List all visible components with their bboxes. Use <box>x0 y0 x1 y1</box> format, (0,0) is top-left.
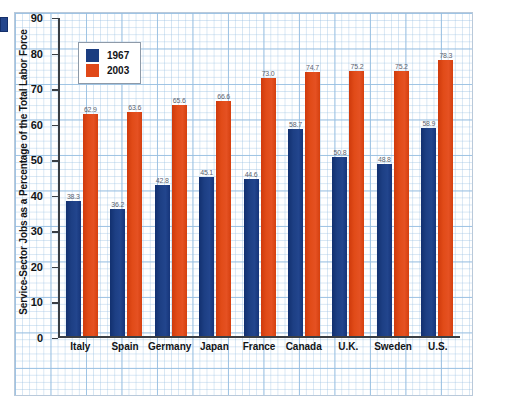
bar-2003-Canada[interactable]: 74.7 <box>305 72 320 336</box>
bar-value-label: 58.7 <box>289 121 302 128</box>
bar-value-label: 75.2 <box>395 63 408 70</box>
bar-1967-Sweden[interactable]: 48.8 <box>377 164 392 336</box>
bar-value-label: 62.9 <box>84 106 97 113</box>
legend-label-1967: 1967 <box>107 50 129 61</box>
bar-fill <box>377 164 392 336</box>
bar-fill <box>261 78 276 336</box>
legend-label-2003: 2003 <box>107 65 129 76</box>
y-tick-0: 0 <box>52 338 58 339</box>
bar-fill <box>438 60 453 337</box>
x-label-US: U.S. <box>415 341 460 352</box>
x-label-Spain: Spain <box>103 341 148 352</box>
bar-fill <box>332 157 347 336</box>
y-tick-label-60: 60 <box>31 119 43 131</box>
bar-fill <box>349 71 364 337</box>
y-tick-label-90: 90 <box>31 12 43 24</box>
bar-fill <box>421 128 436 336</box>
y-tick-50: 50 <box>52 160 58 161</box>
bar-value-label: 48.8 <box>378 156 391 163</box>
bar-2003-UK[interactable]: 75.2 <box>349 71 364 337</box>
x-label-Italy: Italy <box>58 341 103 352</box>
bar-2003-Germany[interactable]: 65.6 <box>172 105 187 337</box>
bar-1967-France[interactable]: 44.6 <box>244 179 259 337</box>
bar-value-label: 38.3 <box>67 193 80 200</box>
bar-group: 48.875.2 <box>371 18 415 336</box>
y-tick-10: 10 <box>52 302 58 303</box>
bar-value-label: 73.0 <box>262 70 275 77</box>
legend-item-2003[interactable]: 2003 <box>86 63 129 78</box>
bar-1967-Japan[interactable]: 45.1 <box>199 177 214 336</box>
y-tick-label-10: 10 <box>31 296 43 308</box>
y-tick-label-70: 70 <box>31 83 43 95</box>
bar-fill <box>199 177 214 336</box>
bar-1967-US[interactable]: 58.9 <box>421 128 436 336</box>
bar-group: 45.166.6 <box>193 18 237 336</box>
legend-swatch-2003-icon <box>86 64 99 77</box>
bar-1967-Italy[interactable]: 38.3 <box>66 201 81 336</box>
y-tick-70: 70 <box>52 89 58 90</box>
y-axis-title: Service-Sector Jobs as a Percentage of t… <box>18 22 32 322</box>
bar-fill <box>244 179 259 337</box>
bar-2003-France[interactable]: 73.0 <box>261 78 276 336</box>
y-tick-label-40: 40 <box>31 190 43 202</box>
bar-fill <box>288 129 303 336</box>
bar-1967-Spain[interactable]: 36.2 <box>110 209 125 337</box>
x-label-Japan: Japan <box>192 341 237 352</box>
y-tick-80: 80 <box>52 54 58 55</box>
figure-page: Service-Sector Jobs as a Percentage of t… <box>0 0 525 409</box>
bar-group: 58.978.3 <box>415 18 459 336</box>
bar-1967-Canada[interactable]: 58.7 <box>288 129 303 336</box>
y-tick-20: 20 <box>52 267 58 268</box>
bar-fill <box>127 112 142 337</box>
y-tick-30: 30 <box>52 231 58 232</box>
x-label-UK: U.K. <box>326 341 371 352</box>
legend-item-1967[interactable]: 1967 <box>86 48 129 63</box>
y-tick-40: 40 <box>52 196 58 197</box>
x-axis-line <box>58 336 460 338</box>
bar-group: 50.875.2 <box>326 18 370 336</box>
y-tick-label-0: 0 <box>37 332 43 344</box>
bar-fill <box>394 71 409 337</box>
bar-2003-US[interactable]: 78.3 <box>438 60 453 337</box>
bar-2003-Japan[interactable]: 66.6 <box>216 101 231 336</box>
bar-value-label: 36.2 <box>111 201 124 208</box>
bar-1967-UK[interactable]: 50.8 <box>332 157 347 336</box>
bar-value-label: 66.6 <box>217 93 230 100</box>
bar-value-label: 58.9 <box>422 120 435 127</box>
x-label-France: France <box>237 341 282 352</box>
bar-2003-Sweden[interactable]: 75.2 <box>394 71 409 337</box>
bar-value-label: 45.1 <box>200 169 213 176</box>
bar-value-label: 78.3 <box>439 52 452 59</box>
bar-1967-Germany[interactable]: 42.8 <box>155 185 170 336</box>
bar-fill <box>66 201 81 336</box>
bar-fill <box>110 209 125 337</box>
legend-swatch-1967-icon <box>86 49 99 62</box>
bar-value-label: 42.8 <box>156 177 169 184</box>
bar-fill <box>83 114 98 336</box>
x-label-Canada: Canada <box>281 341 326 352</box>
bar-fill <box>216 101 231 336</box>
bar-fill <box>172 105 187 337</box>
bar-2003-Italy[interactable]: 62.9 <box>83 114 98 336</box>
y-tick-90: 90 <box>52 18 58 19</box>
bar-value-label: 50.8 <box>334 149 347 156</box>
bar-fill <box>305 72 320 336</box>
bar-value-label: 65.6 <box>173 97 186 104</box>
y-tick-label-20: 20 <box>31 261 43 273</box>
x-axis-labels: ItalySpainGermanyJapanFranceCanadaU.K.Sw… <box>58 341 460 352</box>
bar-2003-Spain[interactable]: 63.6 <box>127 112 142 337</box>
bar-fill <box>155 185 170 336</box>
page-edge-marker <box>0 17 8 32</box>
bar-value-label: 75.2 <box>351 63 364 70</box>
y-tick-label-30: 30 <box>31 225 43 237</box>
bar-value-label: 74.7 <box>306 64 319 71</box>
x-label-Germany: Germany <box>147 341 192 352</box>
y-tick-60: 60 <box>52 125 58 126</box>
y-tick-label-50: 50 <box>31 154 43 166</box>
legend: 1967 2003 <box>78 42 141 84</box>
x-label-Sweden: Sweden <box>371 341 416 352</box>
bar-group: 44.673.0 <box>237 18 281 336</box>
bar-value-label: 44.6 <box>245 171 258 178</box>
bar-group: 58.774.7 <box>282 18 326 336</box>
bar-group: 42.865.6 <box>148 18 192 336</box>
